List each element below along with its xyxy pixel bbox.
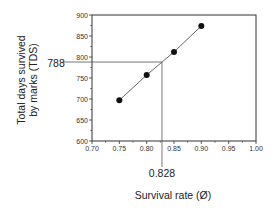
y-axis-label-line2: by marks (TDS): [27, 43, 39, 117]
y-tick-label: 800: [76, 54, 88, 61]
series-line: [119, 26, 201, 100]
x-tick-label: 0.80: [140, 145, 154, 152]
plot-border: [92, 15, 256, 141]
y-tick-label: 700: [76, 96, 88, 103]
y-tick-label: 600: [76, 138, 88, 145]
y-tick-label: 650: [76, 117, 88, 124]
data-point-marker: [116, 97, 122, 103]
y-tick-label: 900: [76, 12, 88, 19]
x-tick-label: 0.85: [167, 145, 181, 152]
data-point-marker: [144, 72, 150, 78]
data-point-marker: [171, 49, 177, 55]
x-tick-label: 0.70: [85, 145, 99, 152]
x-axis-label: Survival rate (Ø): [135, 189, 211, 201]
hline-annotation-label: 788: [47, 57, 65, 69]
data-series: [116, 23, 204, 103]
x-tick-label: 0.75: [113, 145, 127, 152]
y-tick-label: 750: [76, 75, 88, 82]
chart: 0.700.750.800.850.900.951.00600650700750…: [0, 0, 280, 210]
axis-ticks: 0.700.750.800.850.900.951.00600650700750…: [76, 12, 263, 153]
data-point-marker: [198, 23, 204, 29]
plot-frame: [92, 15, 256, 141]
x-tick-label: 1.00: [249, 145, 263, 152]
x-tick-label: 0.95: [222, 145, 236, 152]
y-axis-label-line1: Total days survived: [15, 35, 27, 124]
vline-annotation-label: 0.828: [149, 167, 175, 179]
x-tick-label: 0.90: [195, 145, 209, 152]
y-tick-label: 850: [76, 33, 88, 40]
